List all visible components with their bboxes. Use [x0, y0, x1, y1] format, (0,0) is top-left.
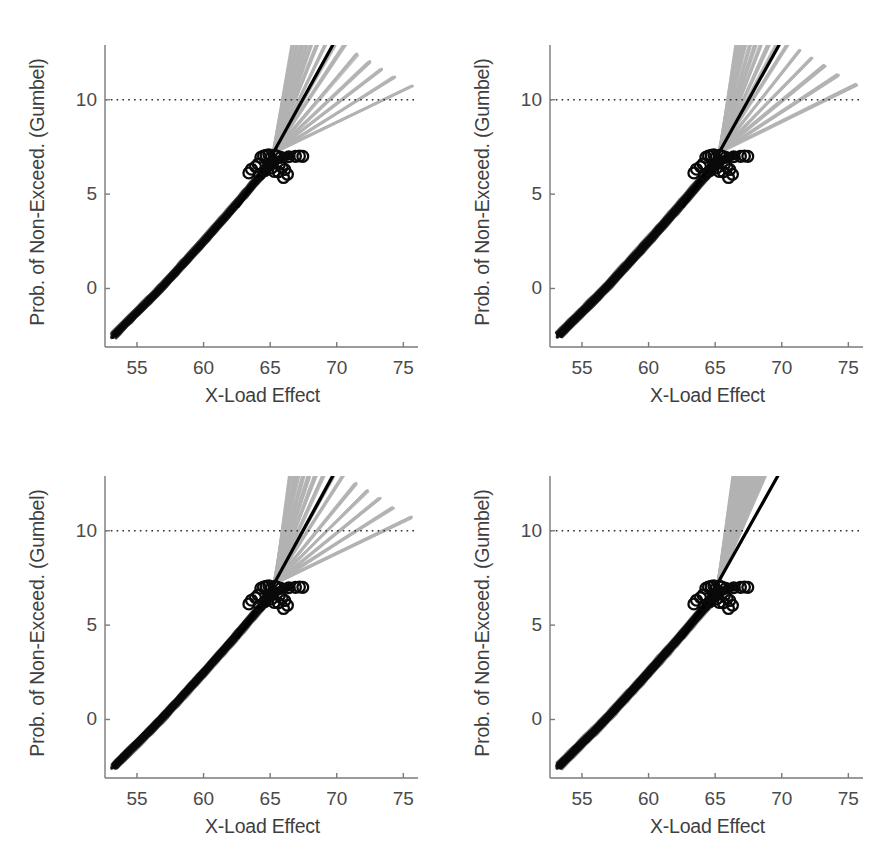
plot-content	[550, 475, 863, 769]
open-circle-markers	[243, 149, 308, 182]
open-circle-markers	[688, 580, 753, 613]
x-tick-label: 55	[571, 788, 592, 810]
figure-grid: 55606570750510X-Load EffectProb. of Non-…	[0, 0, 890, 862]
plot-canvas-bottom-right	[445, 431, 890, 862]
x-tick-label: 70	[771, 788, 792, 810]
y-tick-label: 10	[498, 520, 542, 542]
y-tick-label: 10	[53, 89, 97, 111]
x-tick-label: 70	[326, 357, 347, 379]
y-tick-label: 5	[498, 614, 542, 636]
measured-data-band	[112, 583, 295, 768]
y-tick-label: 0	[53, 708, 97, 730]
x-tick-label: 70	[326, 788, 347, 810]
extrapolation-fan	[273, 475, 411, 585]
plot-content	[105, 44, 418, 338]
x-axis-label: X-Load Effect	[550, 815, 865, 838]
y-tick-label: 0	[498, 277, 542, 299]
measured-data-band	[556, 584, 739, 769]
x-tick-label: 60	[193, 357, 214, 379]
y-tick-label: 10	[53, 520, 97, 542]
y-tick-label: 5	[53, 183, 97, 205]
x-tick-label: 55	[126, 357, 147, 379]
x-axis-label: X-Load Effect	[105, 384, 420, 407]
panel-bottom-left: 55606570750510X-Load EffectProb. of Non-…	[0, 431, 445, 862]
x-axis-label: X-Load Effect	[105, 815, 420, 838]
extrapolation-fan	[718, 44, 857, 154]
x-tick-label: 65	[705, 357, 726, 379]
y-tick-label: 0	[498, 708, 542, 730]
extrapolation-fan	[273, 44, 413, 154]
panel-top-right: 55606570750510X-Load EffectProb. of Non-…	[445, 0, 890, 431]
x-tick-label: 60	[638, 357, 659, 379]
x-tick-label: 65	[705, 788, 726, 810]
plot-canvas-top-right	[445, 0, 890, 431]
measured-data-band	[556, 153, 739, 338]
x-tick-label: 55	[126, 788, 147, 810]
measured-data-band	[111, 152, 294, 338]
plot-content	[550, 44, 863, 337]
x-tick-label: 75	[393, 357, 414, 379]
plot-canvas-bottom-left	[0, 431, 445, 862]
x-tick-label: 75	[838, 357, 859, 379]
x-tick-label: 65	[260, 357, 281, 379]
y-tick-label: 10	[498, 89, 542, 111]
x-tick-label: 55	[571, 357, 592, 379]
x-tick-label: 75	[393, 788, 414, 810]
extrapolation-fan	[718, 475, 766, 583]
x-tick-label: 75	[838, 788, 859, 810]
y-tick-label: 5	[53, 614, 97, 636]
open-circle-markers	[688, 149, 753, 182]
panel-top-left: 55606570750510X-Load EffectProb. of Non-…	[0, 0, 445, 431]
x-tick-label: 60	[638, 788, 659, 810]
y-tick-label: 5	[498, 183, 542, 205]
x-tick-label: 60	[193, 788, 214, 810]
plot-content	[105, 475, 418, 768]
open-circle-markers	[243, 580, 308, 613]
x-axis-label: X-Load Effect	[550, 384, 865, 407]
plot-canvas-top-left	[0, 0, 445, 431]
x-tick-label: 65	[260, 788, 281, 810]
panel-bottom-right: 55606570750510X-Load EffectProb. of Non-…	[445, 431, 890, 862]
x-tick-label: 70	[771, 357, 792, 379]
y-tick-label: 0	[53, 277, 97, 299]
